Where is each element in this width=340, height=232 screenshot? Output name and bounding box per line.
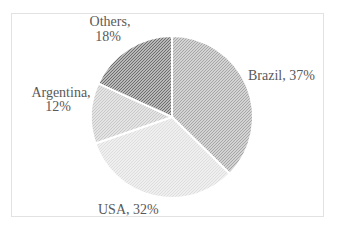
label-others-line2: 18% — [95, 29, 121, 44]
label-brazil: Brazil, 37% — [248, 68, 315, 83]
label-usa: USA, 32% — [98, 202, 159, 217]
label-argentina-line1: Argentina, — [31, 85, 90, 100]
pie-slices — [91, 36, 253, 198]
label-others-line1: Others, — [90, 14, 131, 29]
label-argentina-line2: 12% — [45, 99, 71, 114]
pie-chart: Others, 18% Brazil, 37% Argentina, 12% U… — [0, 0, 340, 232]
pie-chart-container: Others, 18% Brazil, 37% Argentina, 12% U… — [0, 0, 340, 232]
